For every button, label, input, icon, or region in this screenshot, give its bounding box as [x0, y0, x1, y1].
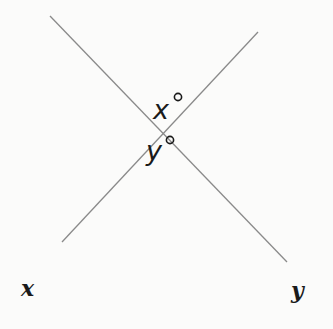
degree-symbol-icon	[174, 93, 181, 100]
angle-variable-x: x	[152, 94, 170, 125]
line-label-x: x	[20, 275, 35, 301]
angle-label-top: x	[152, 93, 182, 125]
line-label-y: y	[290, 277, 306, 303]
line-x	[50, 16, 287, 262]
vertical-angles-diagram: x y x y	[0, 0, 333, 329]
angle-variable-y: y	[145, 135, 163, 166]
diagram-canvas: x y x y	[0, 0, 333, 329]
